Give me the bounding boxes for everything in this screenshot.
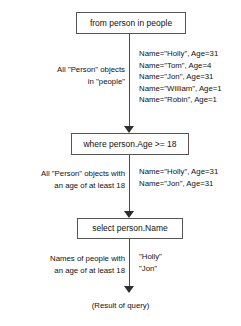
node-where-clause: where person.Age >= 18: [71, 133, 189, 155]
node-from-clause: from person in people: [76, 12, 186, 34]
data-row: Name="Tom", Age=4: [139, 60, 239, 72]
annotation-line: Names of people with: [8, 253, 125, 265]
annotation-line: an age of at least 18: [8, 180, 125, 192]
data-list-adults: Name="Holly", Age=31 Name="Jon", Age=31: [139, 166, 239, 189]
annotation-line: All "Person" objects with: [8, 168, 125, 180]
data-row: Name="Holly", Age=31: [139, 166, 239, 178]
data-row: Name="Jon", Age=31: [139, 178, 239, 190]
annotation-result-names: Names of people with an age of at least …: [8, 253, 125, 276]
connector-select-to-result: [129, 239, 130, 286]
arrowhead-into-where: [124, 126, 134, 133]
data-row: Name="William", Age=1: [139, 83, 239, 95]
query-pipeline-diagram: from person in people All "Person" objec…: [0, 0, 241, 326]
arrowhead-into-select: [124, 211, 134, 218]
data-list-names: "Holly" "Jon": [139, 251, 239, 274]
connector-from-to-where: [129, 34, 130, 126]
data-row: Name="Jon", Age=31: [139, 71, 239, 83]
data-list-people: Name="Holly", Age=31 Name="Tom", Age=4 N…: [139, 48, 239, 106]
annotation-all-person-objects: All "Person" objects in "people": [14, 64, 125, 87]
arrowhead-into-result: [124, 286, 134, 293]
annotation-line: All "Person" objects: [14, 64, 125, 76]
data-row: Name="Holly", Age=31: [139, 48, 239, 60]
data-row: Name="Robin", Age=1: [139, 94, 239, 106]
result-caption: (Result of query): [0, 300, 241, 311]
data-row: "Jon": [139, 263, 239, 275]
connector-where-to-select: [129, 155, 130, 211]
annotation-filtered-objects: All "Person" objects with an age of at l…: [8, 168, 125, 191]
annotation-line: in "people": [14, 76, 125, 88]
data-row: "Holly": [139, 251, 239, 263]
annotation-line: an age of at least 18: [8, 265, 125, 277]
node-select-clause: select person.Name: [77, 218, 183, 239]
